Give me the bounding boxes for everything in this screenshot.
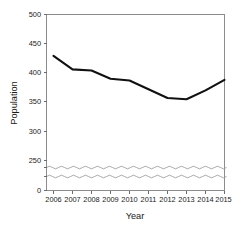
y-axis-title: Population <box>9 81 19 124</box>
x-tick-label-2006: 2006 <box>45 195 61 204</box>
chart-canvas: 500 450 400 350 300 250 0 <box>0 0 242 230</box>
y-tick-label-450: 450 <box>29 39 41 48</box>
y-tick-label-400: 400 <box>29 68 41 77</box>
x-tick-label-2008: 2008 <box>83 195 99 204</box>
x-axis-title: Year <box>126 211 145 221</box>
x-tick-label-2007: 2007 <box>64 195 80 204</box>
y-tick-label-250: 250 <box>29 156 41 165</box>
x-tick-label-2015: 2015 <box>215 195 231 204</box>
population-line-chart: 500 450 400 350 300 250 0 <box>0 0 242 230</box>
y-tick-label-500: 500 <box>29 10 41 19</box>
x-tick-label-2011: 2011 <box>141 195 157 204</box>
y-tick-label-0: 0 <box>37 186 41 195</box>
x-tick-label-2012: 2012 <box>159 195 175 204</box>
x-tick-label-2014: 2014 <box>197 195 213 204</box>
x-tick-label-2010: 2010 <box>121 195 137 204</box>
x-tick-label-2013: 2013 <box>178 195 194 204</box>
y-tick-label-350: 350 <box>29 97 41 106</box>
y-tick-label-300: 300 <box>29 127 41 136</box>
x-tick-label-2009: 2009 <box>102 195 118 204</box>
